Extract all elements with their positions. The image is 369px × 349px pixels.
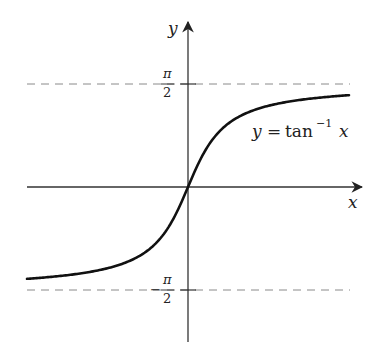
svg-text:tan: tan — [285, 121, 313, 141]
x-axis-label: x — [348, 192, 358, 212]
arctan-chart: y x π 2 − π 2 y = tan −1 x — [0, 0, 369, 349]
svg-text:−1: −1 — [316, 117, 332, 130]
lower-asymptote-label: − π 2 — [150, 272, 174, 306]
svg-text:=: = — [267, 121, 281, 141]
y-axis-label: y — [167, 18, 178, 38]
svg-text:π: π — [162, 272, 172, 287]
svg-text:2: 2 — [163, 291, 171, 306]
svg-text:2: 2 — [163, 85, 171, 100]
curve-label: y = tan −1 x — [251, 117, 349, 141]
svg-text:y: y — [251, 121, 262, 141]
svg-text:−: − — [150, 282, 161, 297]
svg-text:π: π — [162, 66, 172, 81]
upper-asymptote-label: π 2 — [161, 66, 174, 100]
svg-text:x: x — [339, 121, 349, 141]
